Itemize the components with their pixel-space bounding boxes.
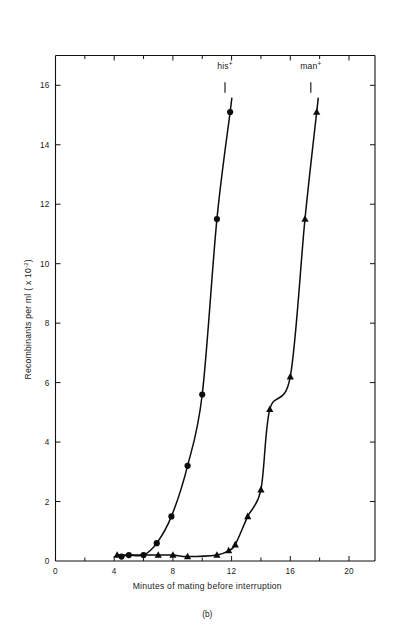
y-tick-label-10: 10 xyxy=(40,260,50,269)
panel-caption-text: (b) xyxy=(202,609,212,619)
x-tick-label-12: 12 xyxy=(227,567,237,576)
axes xyxy=(56,56,376,562)
series-label-his-plus: his+ xyxy=(217,59,233,71)
marker-his-plus-4 xyxy=(168,513,174,519)
y-axis-title: Recombinants per ml ( x 10-2) xyxy=(23,259,33,379)
figure-panel: 0246810121416048121620 his+man+ Minutes … xyxy=(0,0,395,629)
data-markers xyxy=(114,108,321,559)
marker-his-plus-3 xyxy=(154,540,160,546)
x-axis-title: Minutes of mating before interruption xyxy=(133,581,282,591)
x-tick-label-8: 8 xyxy=(171,567,176,576)
y-tick-label-16: 16 xyxy=(40,81,50,90)
series-label-man-plus: man+ xyxy=(300,59,321,71)
axis-titles: Minutes of mating before interruptionRec… xyxy=(23,259,282,591)
data-curves xyxy=(117,98,318,556)
marker-his-plus-7 xyxy=(214,216,220,222)
marker-man-plus-12 xyxy=(313,108,320,115)
curve-man-plus xyxy=(117,98,318,556)
panel-caption: (b) xyxy=(202,609,212,619)
y-tick-label-0: 0 xyxy=(45,557,50,566)
marker-man-plus-10 xyxy=(287,373,294,380)
curve-his-plus xyxy=(122,98,232,556)
x-tick-label-20: 20 xyxy=(344,567,354,576)
marker-man-plus-7 xyxy=(244,513,251,520)
marker-his-plus-5 xyxy=(184,463,190,469)
marker-man-plus-8 xyxy=(257,486,264,493)
series-labels: his+man+ xyxy=(217,59,321,92)
tick-marks xyxy=(56,56,376,562)
marker-his-plus-6 xyxy=(199,391,205,397)
marker-his-plus-2 xyxy=(140,552,146,558)
y-tick-label-4: 4 xyxy=(45,438,50,447)
x-tick-label-16: 16 xyxy=(286,567,296,576)
y-tick-label-12: 12 xyxy=(40,200,50,209)
marker-man-plus-11 xyxy=(301,215,308,222)
x-tick-label-4: 4 xyxy=(112,567,117,576)
y-tick-label-14: 14 xyxy=(40,141,50,150)
y-tick-label-2: 2 xyxy=(45,498,50,507)
marker-man-plus-6 xyxy=(232,541,239,548)
marker-his-plus-8 xyxy=(227,109,233,115)
tick-labels: 0246810121416048121620 xyxy=(40,81,354,576)
marker-man-plus-9 xyxy=(266,406,273,413)
y-tick-label-8: 8 xyxy=(45,319,50,328)
y-tick-label-6: 6 xyxy=(45,379,50,388)
plot-area: 0246810121416048121620 his+man+ Minutes … xyxy=(0,0,395,629)
marker-his-plus-1 xyxy=(126,552,132,558)
x-tick-label-0: 0 xyxy=(53,567,58,576)
